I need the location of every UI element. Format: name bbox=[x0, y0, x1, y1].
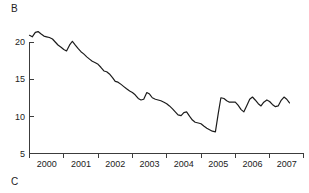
y-tick-label: 10 bbox=[15, 112, 25, 122]
x-tick-label: 2006 bbox=[242, 159, 262, 169]
y-tick-label: 15 bbox=[15, 74, 25, 84]
x-tick-label: 2001 bbox=[71, 159, 91, 169]
line-chart: 5101520 20002001200220032004200520062007 bbox=[0, 0, 309, 193]
figure-panel-b: B 5101520 200020012002200320042005200620… bbox=[0, 0, 309, 193]
x-tick-label: 2003 bbox=[140, 159, 160, 169]
x-axis: 20002001200220032004200520062007 bbox=[30, 154, 304, 170]
y-tick-label: 20 bbox=[15, 37, 25, 47]
panel-label-b: B bbox=[11, 4, 18, 14]
x-tick-label: 2007 bbox=[277, 159, 297, 169]
x-tick-label: 2004 bbox=[174, 159, 194, 169]
chart-series-group bbox=[30, 32, 290, 132]
x-tick-label: 2005 bbox=[208, 159, 228, 169]
y-axis: 5101520 bbox=[15, 37, 34, 159]
x-tick-label: 2000 bbox=[37, 159, 57, 169]
panel-label-c: C bbox=[11, 177, 18, 187]
x-tick-label: 2002 bbox=[105, 159, 125, 169]
data-line-rate bbox=[30, 32, 290, 132]
y-tick-label: 5 bbox=[20, 149, 25, 159]
